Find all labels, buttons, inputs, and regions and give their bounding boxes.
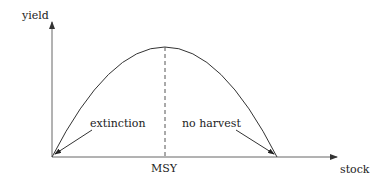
diagram-graphic (0, 0, 385, 182)
y-axis-label: yield (22, 10, 49, 21)
extinction-label: extinction (90, 118, 146, 129)
x-axis-label: stock (340, 164, 370, 175)
no-harvest-pointer (236, 130, 274, 154)
no-harvest-label: no harvest (182, 118, 241, 129)
msy-label: MSY (151, 163, 177, 174)
yield-stock-diagram: yield stock MSY extinction no harvest (0, 0, 385, 182)
